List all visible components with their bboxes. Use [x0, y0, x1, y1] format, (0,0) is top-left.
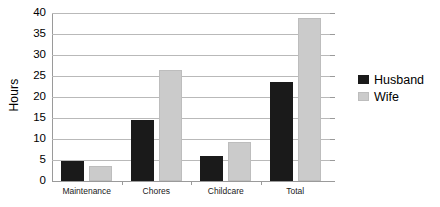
y-axis-tick-label: 25: [24, 70, 46, 82]
y-axis-tick-mark: [330, 181, 335, 182]
x-axis-category-label: Total: [261, 186, 331, 196]
y-axis-tick-mark: [330, 118, 335, 119]
legend-label-wife: Wife: [374, 90, 399, 104]
legend-item-wife: Wife: [358, 88, 424, 105]
y-axis-tick-label: 0: [24, 175, 46, 187]
y-axis-tick-mark: [330, 160, 335, 161]
bar-wife-total: [298, 18, 321, 181]
bar-wife-chores: [159, 70, 182, 181]
y-axis-tick-label: 10: [24, 133, 46, 145]
x-axis-category-label: Childcare: [191, 186, 261, 196]
y-axis-tick-mark: [330, 97, 335, 98]
y-axis-tick-label: 5: [24, 154, 46, 166]
bar-husband-childcare: [200, 156, 223, 181]
gridline: [52, 13, 330, 14]
legend-swatch-icon-wife: [358, 92, 369, 101]
x-axis-tick-mark: [191, 181, 192, 185]
bar-wife-maintenance: [89, 166, 112, 181]
gridline: [52, 76, 330, 77]
x-axis-tick-mark: [122, 181, 123, 185]
y-axis-tick-label: 40: [24, 7, 46, 19]
plot-area: [52, 13, 330, 181]
y-axis-tick-mark: [330, 34, 335, 35]
bar-husband-chores: [131, 120, 154, 181]
y-axis-tick-label: 35: [24, 28, 46, 40]
legend-swatch-icon-husband: [358, 75, 369, 84]
y-axis-tick-label: 30: [24, 49, 46, 61]
y-axis-tick-mark: [330, 13, 335, 14]
gridline: [52, 34, 330, 35]
y-axis-title: Hours: [7, 60, 21, 130]
legend-item-husband: Husband: [358, 71, 424, 88]
y-axis-tick-mark: [330, 55, 335, 56]
y-axis-tick-mark: [330, 76, 335, 77]
legend-label-husband: Husband: [374, 73, 424, 87]
y-axis-tick-mark: [330, 139, 335, 140]
bar-husband-total: [270, 82, 293, 181]
bar-chart: Hours Husband Wife 0510152025303540Maint…: [0, 0, 440, 207]
x-axis-category-label: Maintenance: [52, 186, 122, 196]
x-axis-tick-mark: [261, 181, 262, 185]
bar-husband-maintenance: [61, 161, 84, 181]
chart-legend: Husband Wife: [358, 71, 424, 105]
bar-wife-childcare: [228, 142, 251, 181]
x-axis-category-label: Chores: [122, 186, 192, 196]
gridline: [52, 55, 330, 56]
y-axis-tick-label: 15: [24, 112, 46, 124]
y-axis-tick-label: 20: [24, 91, 46, 103]
